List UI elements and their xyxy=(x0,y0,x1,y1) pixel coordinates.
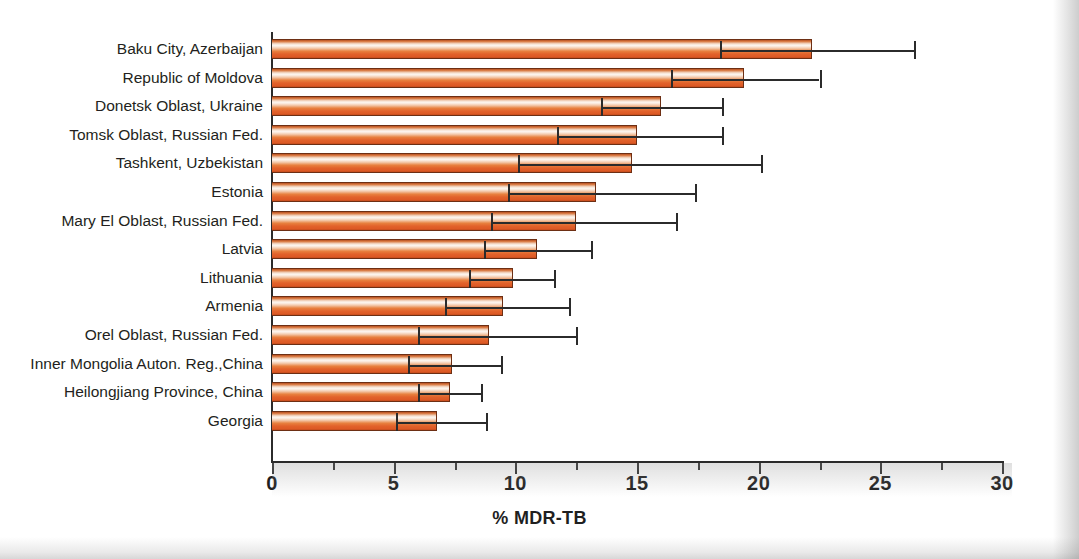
bar xyxy=(272,182,596,202)
mdr-tb-bar-chart: Baku City, AzerbaijanRepublic of Moldova… xyxy=(0,0,1079,559)
error-bar-line xyxy=(408,365,500,367)
error-bar-line xyxy=(484,250,591,252)
x-tick-minor xyxy=(576,463,578,470)
error-bar-line xyxy=(491,222,676,224)
error-bar-cap-low xyxy=(445,298,447,316)
error-bar-line xyxy=(557,136,722,138)
x-tick-minor xyxy=(333,463,335,470)
error-bar-cap-high xyxy=(761,155,763,173)
bar xyxy=(272,211,576,231)
x-tick-minor xyxy=(820,463,822,470)
error-bar-cap-low xyxy=(396,413,398,431)
x-tick-label: 5 xyxy=(388,472,400,495)
error-bar-cap-high xyxy=(554,270,556,288)
error-bar-cap-high xyxy=(569,298,571,316)
category-label: Republic of Moldova xyxy=(0,69,263,87)
error-bar-cap-low xyxy=(720,41,722,59)
error-bar-line xyxy=(469,279,554,281)
bar xyxy=(272,96,661,116)
error-bar-cap-low xyxy=(601,98,603,116)
error-bar-cap-high xyxy=(820,70,822,88)
error-bar-cap-low xyxy=(508,184,510,202)
category-label: Georgia xyxy=(0,412,263,430)
scan-shadow-bottom xyxy=(0,537,1079,559)
scan-shadow-right xyxy=(1053,0,1079,559)
category-label: Latvia xyxy=(0,240,263,258)
bar xyxy=(272,239,537,259)
error-bar-line xyxy=(518,164,761,166)
category-label: Baku City, Azerbaijan xyxy=(0,40,263,58)
error-bar-cap-low xyxy=(491,213,493,231)
bar xyxy=(272,39,812,59)
error-bar-line xyxy=(418,336,576,338)
error-bar-line xyxy=(720,50,915,52)
category-label: Orel Oblast, Russian Fed. xyxy=(0,326,263,344)
error-bar-cap-low xyxy=(469,270,471,288)
error-bar-cap-high xyxy=(914,41,916,59)
error-bar-cap-low xyxy=(557,127,559,145)
bar xyxy=(272,153,632,173)
x-tick-label: 30 xyxy=(990,472,1013,495)
category-label: Inner Mongolia Auton. Reg.,China xyxy=(0,355,263,373)
category-label: Tomsk Oblast, Russian Fed. xyxy=(0,126,263,144)
error-bar-line xyxy=(445,307,569,309)
error-bar-cap-high xyxy=(676,213,678,231)
bar xyxy=(272,382,450,402)
category-label: Tashkent, Uzbekistan xyxy=(0,154,263,172)
category-label: Heilongjiang Province, China xyxy=(0,383,263,401)
x-tick-label: 15 xyxy=(625,472,648,495)
category-label: Estonia xyxy=(0,183,263,201)
x-tick-label: 25 xyxy=(869,472,892,495)
error-bar-cap-high xyxy=(486,413,488,431)
error-bar-line xyxy=(601,107,723,109)
bar xyxy=(272,296,503,316)
x-tick-label: 10 xyxy=(504,472,527,495)
bar xyxy=(272,354,452,374)
error-bar-line xyxy=(418,393,481,395)
error-bar-line xyxy=(508,193,695,195)
bar xyxy=(272,68,744,88)
error-bar-cap-low xyxy=(518,155,520,173)
error-bar-cap-low xyxy=(671,70,673,88)
bar xyxy=(272,325,489,345)
x-tick-label: 20 xyxy=(747,472,770,495)
error-bar-line xyxy=(671,79,819,81)
error-bar-cap-low xyxy=(408,356,410,374)
error-bar-cap-low xyxy=(484,241,486,259)
error-bar-cap-high xyxy=(576,327,578,345)
category-label: Mary El Oblast, Russian Fed. xyxy=(0,212,263,230)
bar xyxy=(272,125,637,145)
error-bar-cap-high xyxy=(481,384,483,402)
error-bar-cap-low xyxy=(418,327,420,345)
x-tick-label: 0 xyxy=(266,472,278,495)
category-label: Lithuania xyxy=(0,269,263,287)
error-bar-cap-high xyxy=(501,356,503,374)
error-bar-cap-high xyxy=(591,241,593,259)
category-label: Donetsk Oblast, Ukraine xyxy=(0,97,263,115)
x-axis-title: % MDR-TB xyxy=(0,508,1079,529)
error-bar-cap-high xyxy=(695,184,697,202)
bar xyxy=(272,268,513,288)
error-bar-cap-high xyxy=(722,98,724,116)
error-bar-line xyxy=(396,422,486,424)
category-label: Armenia xyxy=(0,297,263,315)
x-tick-minor xyxy=(941,463,943,470)
bar xyxy=(272,411,437,431)
error-bar-cap-low xyxy=(418,384,420,402)
error-bar-cap-high xyxy=(722,127,724,145)
x-tick-minor xyxy=(698,463,700,470)
x-tick-minor xyxy=(455,463,457,470)
